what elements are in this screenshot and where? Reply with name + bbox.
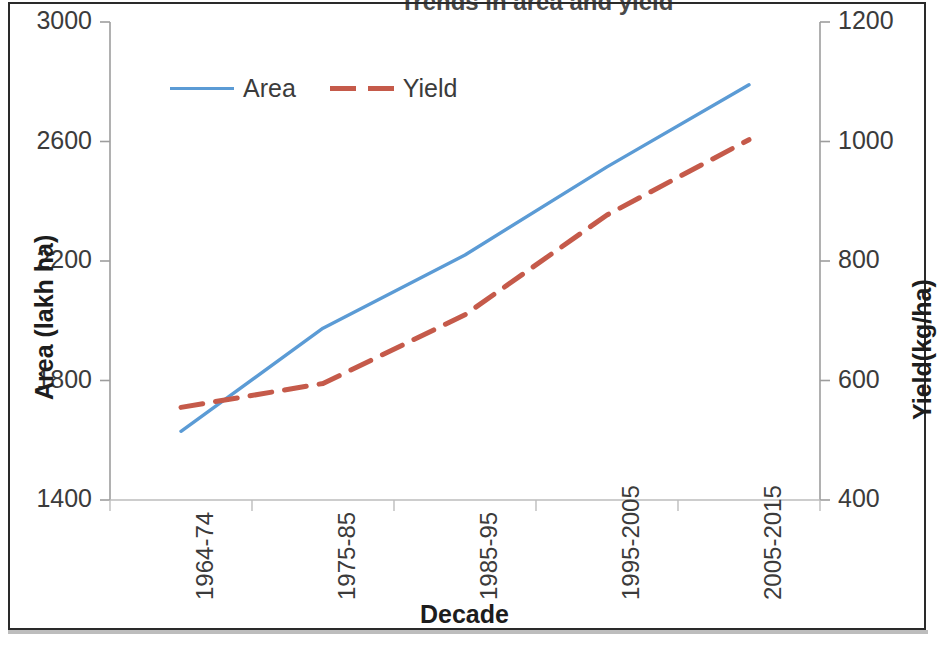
y-axis-right-tick-label: 1000 bbox=[838, 126, 938, 155]
x-axis-tick-label: 1995-2005 bbox=[617, 485, 645, 600]
y-axis-left-title: Area (lakh ha) bbox=[30, 235, 59, 400]
legend-item-yield: Yield bbox=[330, 74, 458, 103]
y-axis-left-tick-label: 3000 bbox=[2, 6, 92, 35]
y-axis-right-tick-label: 1200 bbox=[838, 6, 938, 35]
y-axis-left-tick-label: 2600 bbox=[2, 126, 92, 155]
x-axis-tick-label: 1964-74 bbox=[191, 512, 219, 600]
chart-figure: Trends in area and yield 140018002200260… bbox=[0, 0, 938, 648]
series-line-yield bbox=[181, 140, 749, 408]
series-layer bbox=[181, 85, 749, 432]
x-axis-tick-label: 1975-85 bbox=[333, 512, 361, 600]
x-axis-title: Decade bbox=[420, 600, 509, 629]
chart-legend: Area Yield bbox=[170, 74, 457, 103]
y-axis-right-tick-label: 400 bbox=[838, 484, 938, 513]
plot-canvas bbox=[0, 0, 938, 648]
y-axis-right-tick-label: 800 bbox=[838, 245, 938, 274]
y-axis-left-tick-label: 1400 bbox=[2, 484, 92, 513]
x-axis-tick-label: 2005-2015 bbox=[759, 485, 787, 600]
y-axis-right-title: Yield(kg/ha) bbox=[908, 279, 937, 420]
series-line-area bbox=[181, 85, 749, 432]
x-axis-tick-label: 1985-95 bbox=[475, 512, 503, 600]
legend-label-area: Area bbox=[243, 74, 296, 103]
legend-line-swatch-area bbox=[170, 87, 234, 90]
legend-item-area: Area bbox=[170, 74, 296, 103]
legend-line-swatch-yield bbox=[330, 86, 394, 91]
legend-label-yield: Yield bbox=[403, 74, 458, 103]
